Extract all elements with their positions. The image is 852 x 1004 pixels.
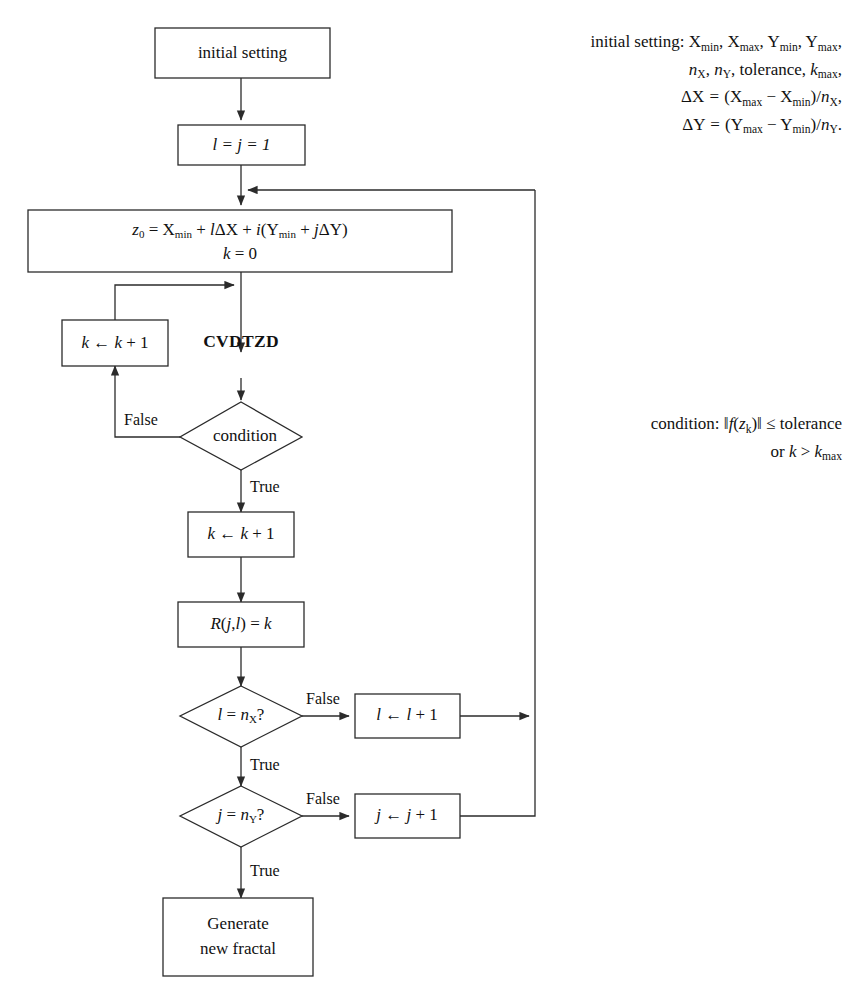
node-init-indices[interactable]: l = j = 1 [178, 125, 305, 165]
node-condition-diamond[interactable]: condition [180, 402, 302, 470]
flowchart-canvas: initial setting l = j = 1 z0 = Xmin + lΔ… [0, 0, 852, 1004]
node-increment-j[interactable]: j ← j + 1 [355, 794, 460, 838]
edge-label-condition-true: True [250, 478, 280, 495]
note-initial-setting: initial setting: Xmin, Xmax, Ymin, Ymax,… [430, 28, 842, 138]
node-check-j-diamond[interactable]: j = nY? [180, 786, 302, 847]
edge-label-check-j-true: True [250, 862, 280, 879]
node-generate-fractal[interactable]: Generate new fractal [163, 898, 313, 976]
edge-label-check-l-true: True [250, 756, 280, 773]
node-check-j-label: j = nY? [216, 805, 265, 825]
node-store-result[interactable]: R(j,l) = k [178, 602, 304, 647]
note-initial-setting-line-1: initial setting: Xmin, Xmax, Ymin, Ymax, [430, 28, 842, 56]
node-generate-fractal-line2: new fractal [200, 939, 276, 958]
node-z0-assignment[interactable]: z0 = Xmin + lΔX + i(Ymin + jΔY) k = 0 [28, 210, 452, 272]
node-init-indices-label: l = j = 1 [213, 135, 271, 154]
node-check-l-diamond[interactable]: l = nX? [180, 686, 302, 747]
node-condition-label: condition [213, 426, 278, 445]
note-condition-line-2: or k > kmax [520, 438, 842, 466]
note-condition-line-1: condition: ‖f(zk)‖ ≤ tolerance [520, 410, 842, 438]
node-check-l-label: l = nX? [218, 705, 265, 725]
node-increment-k-loop-label: k ← k + 1 [81, 333, 148, 352]
node-store-result-label: R(j,l) = k [209, 614, 272, 633]
note-initial-setting-line-4: ΔY = (Ymax − Ymin)/nY. [430, 111, 842, 139]
node-generate-fractal-line1: Generate [207, 914, 268, 933]
node-initial-setting-label: initial setting [198, 43, 288, 62]
node-increment-j-label: j ← j + 1 [374, 805, 438, 824]
node-increment-l-label: l ← l + 1 [376, 705, 438, 724]
node-z0-formula-line1: z0 = Xmin + lΔX + i(Ymin + jΔY) [131, 220, 347, 240]
node-increment-k-after-label: k ← k + 1 [207, 524, 274, 543]
note-condition: condition: ‖f(zk)‖ ≤ tolerance or k > km… [520, 410, 842, 465]
edge-label-condition-false: False [124, 411, 158, 428]
node-z0-formula-line2: k = 0 [223, 244, 257, 263]
edge-label-check-l-false: False [306, 690, 340, 707]
note-initial-setting-line-2: nX, nY, tolerance, kmax, [430, 56, 842, 84]
node-cvdtzd-label: CVDTZD [203, 331, 279, 351]
node-increment-k-after[interactable]: k ← k + 1 [188, 512, 294, 557]
note-initial-setting-line-3: ΔX = (Xmax − Xmin)/nX, [430, 83, 842, 111]
node-increment-l[interactable]: l ← l + 1 [355, 694, 460, 738]
edge-increment-j-to-feedback [460, 800, 535, 816]
node-increment-k-loop[interactable]: k ← k + 1 [62, 320, 168, 366]
edge-label-check-j-false: False [306, 790, 340, 807]
edge-increment-k-loop-to-main-axis [115, 285, 234, 320]
node-initial-setting[interactable]: initial setting [155, 28, 330, 78]
